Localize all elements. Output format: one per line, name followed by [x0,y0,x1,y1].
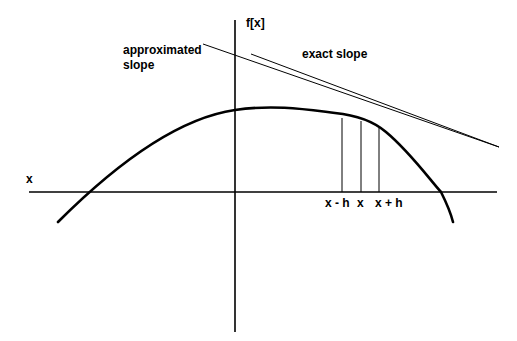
approximated-slope-label-line2: slope [123,58,154,72]
y-axis-label: f[x] [246,16,265,30]
exact-slope-label: exact slope [302,47,367,61]
tick-label-x-minus-h: x - h [325,196,350,210]
tick-label-x-plus-h: x + h [375,196,403,210]
derivative-diagram: f[x] x approximated slope exact slope x … [0,0,517,341]
exact-slope-line [251,54,499,147]
tick-label-x: x [357,196,364,210]
approximated-slope-label-line1: approximated [123,43,202,57]
x-axis-label: x [26,172,33,186]
diagram-canvas [0,0,517,341]
